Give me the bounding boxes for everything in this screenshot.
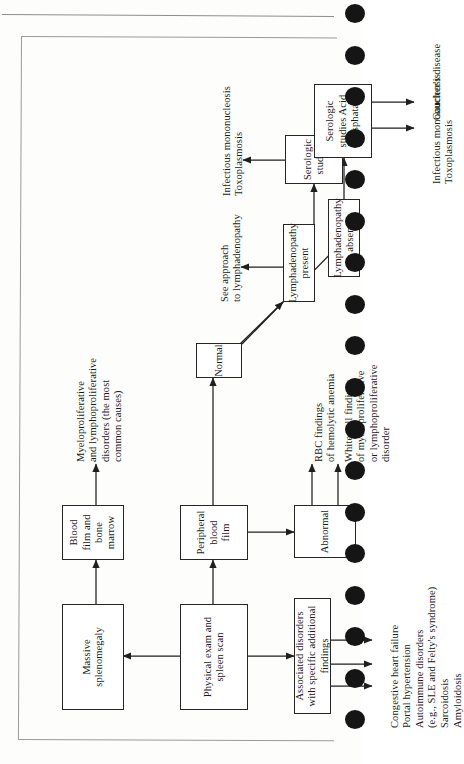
binding-hole bbox=[345, 378, 365, 397]
binding-hole bbox=[345, 129, 365, 148]
label-myeloproliferative-outcome: Myeloproliferative and lymphoproliferati… bbox=[62, 330, 125, 462]
node-physical-exam: Physical exam and spleen scan bbox=[180, 604, 248, 710]
binding-hole bbox=[345, 544, 365, 563]
binding-hole bbox=[345, 87, 365, 106]
node-associated-disorders: Associated disorders with specific addit… bbox=[294, 598, 331, 714]
label-associated-disorder-list: Congestive heart failure Portal hyperten… bbox=[376, 528, 464, 728]
label-see-approach-text: See approach to lymphadenopathy bbox=[219, 214, 243, 302]
binding-hole bbox=[345, 503, 365, 522]
binding-hole bbox=[345, 295, 365, 314]
binding-hole bbox=[345, 627, 365, 646]
node-massive-splenomegaly-label: Massive splenomegaly bbox=[81, 609, 106, 705]
label-serology-outcome-present: Infectious mononucleosis Toxoplasmosis bbox=[208, 46, 246, 196]
node-lymphadenopathy-present: Lymphadenopathy present bbox=[283, 224, 315, 302]
spiral-binding-strip bbox=[335, 0, 361, 764]
label-serology-outcome-absent-2-text: Gaucher's disease bbox=[431, 44, 442, 120]
node-normal-label: Normal bbox=[213, 344, 225, 377]
binding-hole bbox=[345, 420, 365, 439]
node-lymphadenopathy-present-label: Lymphadenopathy present bbox=[287, 223, 312, 303]
binding-hole bbox=[345, 253, 365, 272]
binding-hole bbox=[345, 586, 365, 605]
binding-hole bbox=[345, 461, 365, 480]
node-peripheral-blood-film: Peripheral blood film bbox=[180, 505, 248, 560]
node-abnormal-label: Abnormal bbox=[319, 510, 331, 553]
binding-hole bbox=[345, 46, 365, 65]
label-associated-disorder-list-text: Congestive heart failure Portal hyperten… bbox=[389, 587, 463, 728]
node-blood-film-bone-marrow: Blood film and bone marrow bbox=[62, 505, 124, 560]
label-myeloproliferative-outcome-text: Myeloproliferative and lymphoproliferati… bbox=[75, 358, 124, 462]
node-massive-splenomegaly: Massive splenomegaly bbox=[62, 604, 124, 710]
label-serology-outcome-present-text: Infectious mononucleosis Toxoplasmosis bbox=[221, 86, 245, 196]
node-associated-disorders-label: Associated disorders with specific addit… bbox=[294, 603, 331, 709]
binding-hole bbox=[345, 4, 365, 23]
label-serology-outcome-absent-2: Gaucher's disease bbox=[418, 0, 443, 120]
binding-hole bbox=[345, 170, 365, 189]
binding-hole bbox=[345, 212, 365, 231]
node-blood-film-bone-marrow-label: Blood film and bone marrow bbox=[68, 510, 118, 555]
node-physical-exam-label: Physical exam and spleen scan bbox=[202, 609, 227, 705]
binding-hole bbox=[345, 710, 365, 729]
binding-hole bbox=[345, 669, 365, 688]
node-peripheral-blood-film-label: Peripheral blood film bbox=[195, 510, 232, 555]
node-normal: Normal bbox=[196, 343, 242, 378]
